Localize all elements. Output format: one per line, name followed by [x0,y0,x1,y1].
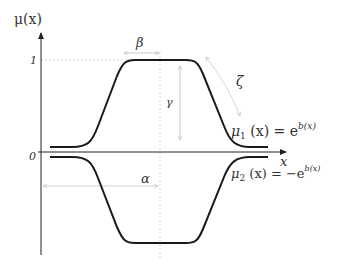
zeta-arrow [206,57,240,116]
y-axis-label: μ(x) [14,11,42,27]
mu2-equation: μ2 (x) = −eb(x) [231,164,320,183]
beta-label: β [135,35,144,50]
alpha-label: α [141,171,150,186]
tick-zero-label: 0 [29,150,36,163]
mu1-equation: μ1 (x) = eb(x) [231,121,316,141]
membership-function-diagram: μ(x) x 1 0 β γ ζ α μ1 (x) = eb(x) μ2 (x)… [0,0,341,265]
gamma-label: γ [166,96,173,109]
tick-one-label: 1 [30,54,37,67]
zeta-label: ζ [236,73,245,89]
